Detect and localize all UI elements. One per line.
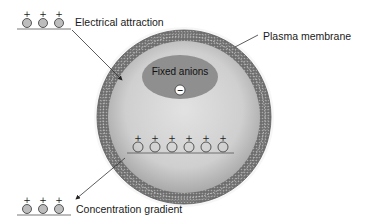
plasma-membrane-label: Plasma membrane xyxy=(263,30,351,42)
electrical-attraction-arrow xyxy=(72,30,122,80)
cell: Fixed anions − + + + + + + xyxy=(94,27,274,207)
cation-icon: + xyxy=(39,195,48,214)
svg-text:+: + xyxy=(55,195,63,205)
svg-text:+: + xyxy=(219,133,227,143)
plasma-membrane-callout: Plasma membrane xyxy=(235,30,351,47)
cation-icon: + xyxy=(39,9,48,28)
svg-text:+: + xyxy=(168,133,176,143)
plasma-membrane-leader xyxy=(235,35,258,47)
svg-text:+: + xyxy=(23,9,31,19)
electrical-attraction-label: Electrical attraction xyxy=(75,16,164,28)
resting-membrane-diagram: Fixed anions − + + + + + + + + + Electri… xyxy=(0,0,370,224)
cation-icon: + xyxy=(23,195,32,214)
concentration-gradient-label: Concentration gradient xyxy=(76,203,182,215)
fixed-anions-label: Fixed anions xyxy=(152,66,209,77)
svg-text:+: + xyxy=(23,195,31,205)
anion-charge: − xyxy=(177,86,184,95)
svg-text:+: + xyxy=(39,195,47,205)
svg-text:+: + xyxy=(202,133,210,143)
cation-icon: + xyxy=(55,195,64,214)
svg-text:+: + xyxy=(134,133,142,143)
svg-text:+: + xyxy=(39,9,47,19)
svg-text:+: + xyxy=(185,133,193,143)
svg-text:+: + xyxy=(55,9,63,19)
cation-icon: + xyxy=(23,9,32,28)
cation-icon: + xyxy=(55,9,64,28)
svg-text:+: + xyxy=(151,133,159,143)
concentration-gradient-arrow xyxy=(76,158,125,199)
